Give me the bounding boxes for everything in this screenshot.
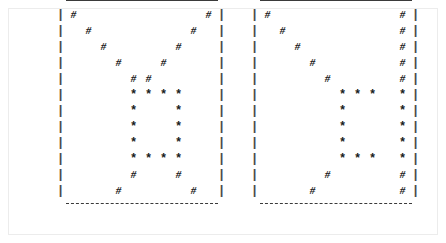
- star-glyph: *: [126, 134, 141, 150]
- empty-cell: [156, 134, 171, 150]
- right-rail-mark: |: [411, 54, 420, 70]
- empty-cell: [96, 102, 111, 118]
- left-rail-mark: |: [56, 6, 65, 22]
- empty-cell: [260, 118, 275, 134]
- empty-cell: [350, 166, 365, 182]
- left-rail-mark: |: [250, 102, 259, 118]
- right-rail-mark: |: [411, 150, 420, 166]
- star-glyph: *: [141, 150, 156, 166]
- empty-cell: [186, 102, 201, 118]
- empty-cell: [81, 86, 96, 102]
- right-rail-mark: |: [411, 166, 420, 182]
- hash-glyph: #: [141, 70, 156, 86]
- empty-cell: [380, 54, 395, 70]
- empty-cell: [81, 182, 96, 198]
- star-glyph: *: [395, 134, 410, 150]
- star-glyph: *: [350, 150, 365, 166]
- empty-cell: [335, 38, 350, 54]
- empty-cell: [350, 118, 365, 134]
- hash-glyph: #: [275, 22, 290, 38]
- grid-row: | # # |: [56, 54, 226, 70]
- empty-cell: [126, 38, 141, 54]
- empty-cell: [96, 134, 111, 150]
- empty-cell: [96, 86, 111, 102]
- star-glyph: *: [335, 86, 350, 102]
- empty-cell: [275, 134, 290, 150]
- grid-row: | # # |: [56, 22, 226, 38]
- empty-cell: [380, 118, 395, 134]
- empty-cell: [320, 102, 335, 118]
- left-rail-mark: |: [56, 22, 65, 38]
- empty-cell: [156, 38, 171, 54]
- empty-cell: [66, 38, 81, 54]
- empty-cell: [290, 22, 305, 38]
- left-rail-mark: |: [56, 86, 65, 102]
- left-panel-bottom-rule: [66, 203, 218, 204]
- empty-cell: [66, 166, 81, 182]
- right-rail-mark: |: [217, 38, 226, 54]
- hash-glyph: #: [66, 6, 81, 22]
- empty-cell: [201, 118, 216, 134]
- empty-cell: [380, 70, 395, 86]
- star-glyph: *: [365, 150, 380, 166]
- empty-cell: [111, 38, 126, 54]
- empty-cell: [141, 54, 156, 70]
- empty-cell: [156, 70, 171, 86]
- left-panel: |# #|| # # || # # || # # || ## || **** |…: [56, 0, 226, 204]
- empty-cell: [380, 166, 395, 182]
- empty-cell: [350, 70, 365, 86]
- empty-cell: [141, 38, 156, 54]
- empty-cell: [141, 102, 156, 118]
- empty-cell: [380, 86, 395, 102]
- left-rail-mark: |: [56, 166, 65, 182]
- left-rail-mark: |: [56, 38, 65, 54]
- star-glyph: *: [126, 118, 141, 134]
- star-glyph: *: [395, 150, 410, 166]
- hash-glyph: #: [395, 22, 410, 38]
- empty-cell: [66, 182, 81, 198]
- empty-cell: [290, 166, 305, 182]
- empty-cell: [290, 70, 305, 86]
- empty-cell: [186, 118, 201, 134]
- grid-row: | * *|: [250, 102, 420, 118]
- empty-cell: [290, 134, 305, 150]
- empty-cell: [111, 150, 126, 166]
- empty-cell: [171, 70, 186, 86]
- empty-cell: [96, 118, 111, 134]
- right-rail-mark: |: [411, 38, 420, 54]
- hash-glyph: #: [395, 54, 410, 70]
- empty-cell: [290, 102, 305, 118]
- empty-cell: [305, 150, 320, 166]
- empty-cell: [171, 54, 186, 70]
- star-glyph: *: [126, 102, 141, 118]
- empty-cell: [141, 118, 156, 134]
- empty-cell: [156, 166, 171, 182]
- empty-cell: [335, 70, 350, 86]
- hash-glyph: #: [171, 166, 186, 182]
- empty-cell: [350, 54, 365, 70]
- empty-cell: [156, 102, 171, 118]
- right-rail-mark: |: [411, 182, 420, 198]
- star-glyph: *: [171, 86, 186, 102]
- hash-glyph: #: [395, 70, 410, 86]
- empty-cell: [275, 166, 290, 182]
- grid-row: | *** *|: [250, 150, 420, 166]
- empty-cell: [290, 118, 305, 134]
- empty-cell: [260, 54, 275, 70]
- right-rail-mark: |: [217, 150, 226, 166]
- empty-cell: [66, 54, 81, 70]
- left-rail-mark: |: [250, 6, 259, 22]
- empty-cell: [305, 22, 320, 38]
- left-rail-mark: |: [250, 182, 259, 198]
- hash-glyph: #: [395, 182, 410, 198]
- grid-row: | * *|: [250, 134, 420, 150]
- left-rail-mark: |: [250, 70, 259, 86]
- empty-cell: [186, 54, 201, 70]
- right-rail-mark: |: [411, 86, 420, 102]
- empty-cell: [81, 166, 96, 182]
- empty-cell: [335, 166, 350, 182]
- empty-cell: [186, 86, 201, 102]
- left-rail-mark: |: [56, 150, 65, 166]
- empty-cell: [141, 6, 156, 22]
- hash-glyph: #: [96, 38, 111, 54]
